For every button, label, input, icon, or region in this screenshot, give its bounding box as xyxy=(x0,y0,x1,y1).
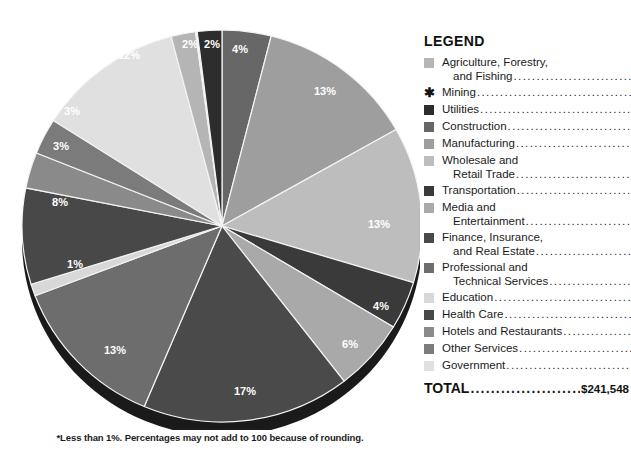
legend-item-label: Agriculture, Forestry, xyxy=(442,55,548,69)
legend-total-label: TOTAL xyxy=(424,380,469,396)
legend-item[interactable]: Education...............................… xyxy=(424,290,629,305)
legend-item[interactable]: Agriculture, Forestry,and Fishing.......… xyxy=(424,55,629,83)
legend-item-label: Professional and xyxy=(442,260,528,274)
legend-color-swatch xyxy=(424,122,434,132)
legend-item-label-cont: Entertainment xyxy=(453,214,525,228)
legend-color-swatch xyxy=(424,310,434,320)
legend-item[interactable]: Other Services..........................… xyxy=(424,341,629,356)
chart-footnote: *Less than 1%. Percentages may not add t… xyxy=(0,432,420,443)
pie-slice-percent-label: 3% xyxy=(53,140,69,152)
legend-color-swatch xyxy=(424,105,434,115)
legend-leader-dots: ....................................... xyxy=(513,69,631,83)
pie-slice-percent-label: 4% xyxy=(232,43,248,55)
pie-slice-percent-label: 17% xyxy=(234,385,256,397)
legend-item[interactable]: ✱Mining.................................… xyxy=(424,85,629,100)
legend-leader-dots: ....................................... xyxy=(549,274,631,288)
legend-leader-dots: ....................................... xyxy=(477,85,631,99)
legend-item[interactable]: Professional andTechnical Services......… xyxy=(424,260,629,288)
legend-swatch-cell xyxy=(424,55,442,68)
legend-leader-dots: ....................................... xyxy=(519,341,631,355)
legend-item[interactable]: Utilities...............................… xyxy=(424,102,629,117)
pie-slice-percent-label: 13% xyxy=(314,85,336,97)
legend-leader-dots: ....................................... xyxy=(563,324,631,338)
legend-item-label: Education xyxy=(442,290,493,304)
legend-color-swatch xyxy=(424,203,434,213)
legend-item-text: Manufacturing...........................… xyxy=(442,136,631,150)
legend-item-text: Mining..................................… xyxy=(442,85,631,99)
legend-item[interactable]: Finance, Insurance,and Real Estate......… xyxy=(424,230,629,258)
pie-slice-percent-label: 4% xyxy=(373,300,389,312)
legend-item-text: Utilities...............................… xyxy=(442,102,631,116)
legend-swatch-cell xyxy=(424,200,442,213)
pie-chart-svg: 4%13%13%4%6%17%13%1%8%3%3%12%2%2% xyxy=(0,0,420,430)
legend-item[interactable]: Media andEntertainment..................… xyxy=(424,200,629,228)
legend-item-text: Health Care.............................… xyxy=(442,307,631,321)
legend-color-swatch xyxy=(424,263,434,273)
legend-swatch-cell xyxy=(424,341,442,354)
legend-total-dots: ..................................... xyxy=(470,380,580,396)
legend-item-label: Finance, Insurance, xyxy=(442,230,543,244)
legend-item[interactable]: Wholesale andRetail Trade...............… xyxy=(424,153,629,181)
legend-item-label-cont: and Real Estate xyxy=(453,244,535,258)
pie-slice-percent-label: 13% xyxy=(104,344,126,356)
legend-item-text: Finance, Insurance,and Real Estate......… xyxy=(442,230,631,258)
legend-item-text: Transportation..........................… xyxy=(442,183,631,197)
legend-color-swatch xyxy=(424,139,434,149)
legend-item-text: Agriculture, Forestry,and Fishing.......… xyxy=(442,55,631,83)
legend-item-label: Mining xyxy=(442,85,476,99)
legend-item-label: Utilities xyxy=(442,102,479,116)
pie-slice-percent-label: 8% xyxy=(52,196,68,208)
legend-item-label: Media and xyxy=(442,200,496,214)
legend-leader-dots: ....................................... xyxy=(504,307,631,321)
legend-swatch-cell xyxy=(424,102,442,115)
legend-item-label: Hotels and Restaurants xyxy=(442,324,562,338)
legend-swatch-cell xyxy=(424,136,442,149)
legend-item-text: Media andEntertainment..................… xyxy=(442,200,631,228)
legend-total-row: TOTAL ..................................… xyxy=(424,380,629,396)
legend-item-text: Hotels and Restaurants..................… xyxy=(442,324,631,338)
legend-item-label-cont: Technical Services xyxy=(453,274,548,288)
legend-color-swatch xyxy=(424,344,434,354)
legend-swatch-cell xyxy=(424,230,442,243)
pie-chart-area: 4%13%13%4%6%17%13%1%8%3%3%12%2%2% xyxy=(0,0,420,430)
legend-item-label: Manufacturing xyxy=(442,136,515,150)
legend-item-label: Government xyxy=(442,358,505,372)
legend-total-amount: $241,548 xyxy=(581,383,629,395)
legend-leader-dots: ....................................... xyxy=(506,358,631,372)
legend-item-text: Professional andTechnical Services......… xyxy=(442,260,631,288)
legend-leader-dots: ....................................... xyxy=(516,167,631,181)
legend-color-swatch xyxy=(424,327,434,337)
legend-color-swatch xyxy=(424,293,434,303)
legend-item[interactable]: Hotels and Restaurants..................… xyxy=(424,324,629,339)
legend-swatch-cell: ✱ xyxy=(424,85,442,98)
asterisk-icon: ✱ xyxy=(424,88,434,98)
legend-title: LEGEND xyxy=(424,33,629,49)
legend-leader-dots: ....................................... xyxy=(517,183,631,197)
legend-leader-dots: ....................................... xyxy=(536,244,631,258)
legend-item[interactable]: Health Care.............................… xyxy=(424,307,629,322)
legend-item[interactable]: Transportation..........................… xyxy=(424,183,629,198)
legend-color-swatch xyxy=(424,361,434,371)
legend-swatch-cell xyxy=(424,153,442,166)
legend-swatch-cell xyxy=(424,324,442,337)
legend-item-text: Other Services..........................… xyxy=(442,341,631,355)
legend-swatch-cell xyxy=(424,183,442,196)
legend-item[interactable]: Construction............................… xyxy=(424,119,629,134)
legend-swatch-cell xyxy=(424,260,442,273)
legend-swatch-cell xyxy=(424,290,442,303)
legend-item-label: Construction xyxy=(442,119,507,133)
legend-rows: Agriculture, Forestry,and Fishing.......… xyxy=(424,55,629,373)
legend: LEGEND Agriculture, Forestry,and Fishing… xyxy=(424,33,629,396)
pie-slice-percent-label: 12% xyxy=(118,49,140,61)
legend-item[interactable]: Manufacturing...........................… xyxy=(424,136,629,151)
legend-item-text: Government..............................… xyxy=(442,358,631,372)
legend-leader-dots: ....................................... xyxy=(494,290,631,304)
legend-swatch-cell xyxy=(424,358,442,371)
legend-item-label: Wholesale and xyxy=(442,153,518,167)
legend-item-label: Other Services xyxy=(442,341,518,355)
legend-leader-dots: ....................................... xyxy=(480,102,631,116)
legend-color-swatch xyxy=(424,186,434,196)
legend-item[interactable]: Government..............................… xyxy=(424,358,629,373)
legend-item-label: Health Care xyxy=(442,307,503,321)
legend-item-text: Education...............................… xyxy=(442,290,631,304)
